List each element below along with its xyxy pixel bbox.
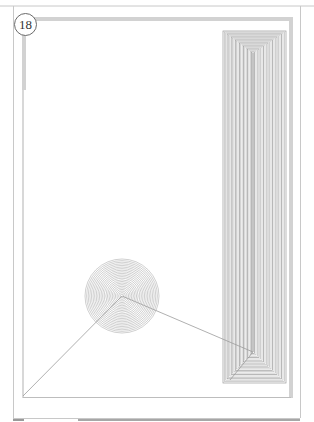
illustration bbox=[0, 0, 314, 422]
inner-band-frame bbox=[22, 17, 293, 398]
book-page: 18 bbox=[0, 0, 314, 422]
page-number: 18 bbox=[19, 18, 32, 31]
nested-rectangles bbox=[223, 31, 286, 383]
outer-frame bbox=[0, 6, 314, 419]
connector-lines bbox=[23, 296, 253, 396]
page-number-badge: 18 bbox=[14, 13, 37, 36]
